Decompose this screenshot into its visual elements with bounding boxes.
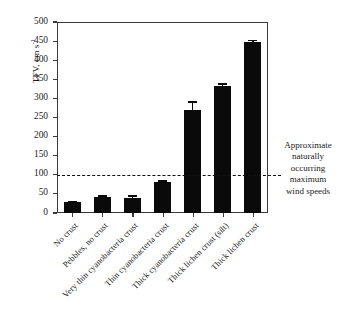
x-tick-mark <box>72 213 73 217</box>
x-tick-mark <box>102 213 103 217</box>
y-tick-label: 150 <box>34 149 48 159</box>
bar-slot <box>64 22 81 213</box>
x-axis-label: No crust <box>0 220 80 324</box>
threshold-annotation: Approximatenaturallyoccurringmaximumwind… <box>276 140 340 197</box>
bar-slot <box>244 22 261 213</box>
annotation-line: Approximate <box>276 140 340 151</box>
error-bar-cap <box>218 83 227 84</box>
bar-slot <box>214 22 231 213</box>
y-tick-label: 50 <box>39 187 48 197</box>
error-bar-cap <box>128 195 137 196</box>
bar <box>94 197 111 213</box>
annotation-line: wind speeds <box>276 186 340 197</box>
error-bar-cap <box>98 195 107 196</box>
y-tick-label: 350 <box>34 73 48 83</box>
bar <box>214 86 231 213</box>
bar-slot <box>184 22 201 213</box>
y-tick-label: 100 <box>34 168 48 178</box>
bar <box>244 42 261 213</box>
bar-slot <box>124 22 141 213</box>
bar <box>184 110 201 213</box>
y-tick-label: 450 <box>34 35 48 45</box>
error-bar-cap <box>158 180 167 181</box>
error-bar-cap <box>248 40 257 41</box>
bar <box>154 182 171 213</box>
annotation-line: maximum <box>276 174 340 185</box>
y-tick-label: 500 <box>34 16 48 26</box>
error-bar-cap <box>188 101 197 102</box>
x-tick-mark <box>253 213 254 217</box>
chart-figure: TFV, cm s-1 0501001502002503003504004505… <box>0 0 342 324</box>
x-tick-mark <box>193 213 194 217</box>
annotation-line: naturally <box>276 151 340 162</box>
bar <box>64 202 81 213</box>
y-tick-label: 400 <box>34 54 48 64</box>
bar <box>124 198 141 213</box>
x-tick-mark <box>223 213 224 217</box>
annotation-line: occurring <box>276 163 340 174</box>
x-tick-mark <box>163 213 164 217</box>
threshold-dashed-line <box>57 175 281 176</box>
y-tick-label: 0 <box>43 207 48 217</box>
y-tick-label: 250 <box>34 111 48 121</box>
y-tick-label: 200 <box>34 130 48 140</box>
y-tick-label: 300 <box>34 92 48 102</box>
error-bar-cap <box>68 201 77 202</box>
bars-container <box>57 22 268 213</box>
bar-slot <box>154 22 171 213</box>
x-tick-mark <box>132 213 133 217</box>
bar-slot <box>94 22 111 213</box>
